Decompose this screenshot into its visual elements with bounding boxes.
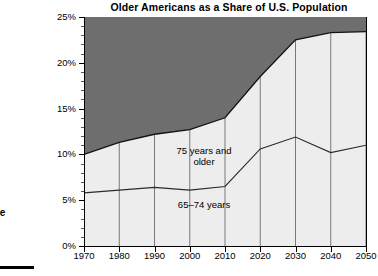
y-axis-minor-tick bbox=[81, 72, 84, 73]
y-axis-minor-tick bbox=[81, 164, 84, 165]
series-label-65-74-line1: 65–74 years bbox=[152, 199, 256, 210]
y-axis-tick bbox=[79, 200, 84, 201]
y-axis-minor-tick bbox=[81, 26, 84, 27]
y-axis-minor-tick bbox=[81, 35, 84, 36]
series-label-75-plus-line1: 75 years and bbox=[152, 145, 256, 156]
y-axis-minor-tick bbox=[81, 127, 84, 128]
caption-divider-rule bbox=[0, 266, 34, 269]
y-axis-line bbox=[84, 17, 85, 247]
plot-right-border bbox=[366, 17, 367, 247]
y-axis-tick bbox=[79, 154, 84, 155]
y-axis-minor-tick bbox=[81, 173, 84, 174]
y-axis-minor-tick bbox=[81, 219, 84, 220]
source-caption: ange au 2) bbox=[0, 207, 46, 243]
y-axis-label: 20% bbox=[40, 57, 76, 68]
y-axis-minor-tick bbox=[81, 90, 84, 91]
y-axis-minor-tick bbox=[81, 44, 84, 45]
y-axis-minor-tick bbox=[81, 99, 84, 100]
y-axis-minor-tick bbox=[81, 228, 84, 229]
y-axis-minor-tick bbox=[81, 237, 84, 238]
y-axis-minor-tick bbox=[81, 54, 84, 55]
y-axis-label: 5% bbox=[40, 194, 76, 205]
y-axis-label: 25% bbox=[40, 11, 76, 22]
series-label-75-plus-line2: older bbox=[152, 156, 256, 167]
chart-page: Older Americans as a Share of U.S. Popul… bbox=[0, 0, 378, 276]
area-chart-svg bbox=[84, 17, 366, 247]
y-axis-minor-tick bbox=[81, 81, 84, 82]
y-axis-minor-tick bbox=[81, 145, 84, 146]
y-axis-tick bbox=[79, 17, 84, 18]
y-axis-minor-tick bbox=[81, 118, 84, 119]
y-axis-minor-tick bbox=[81, 182, 84, 183]
source-caption-line-1: ange bbox=[0, 207, 46, 219]
y-axis-tick bbox=[79, 109, 84, 110]
source-caption-line-2: au bbox=[0, 219, 46, 231]
y-axis-label: 15% bbox=[40, 103, 76, 114]
series-label-65-74: 65–74 years bbox=[152, 199, 256, 210]
y-axis-minor-tick bbox=[81, 209, 84, 210]
page-title: Older Americans as a Share of U.S. Popul… bbox=[84, 1, 374, 13]
y-axis-label: 10% bbox=[40, 148, 76, 159]
x-axis-label: 2050 bbox=[344, 250, 378, 261]
series-label-75-plus: 75 years and older bbox=[152, 145, 256, 167]
y-axis-minor-tick bbox=[81, 136, 84, 137]
y-axis-tick bbox=[79, 63, 84, 64]
y-axis-minor-tick bbox=[81, 191, 84, 192]
